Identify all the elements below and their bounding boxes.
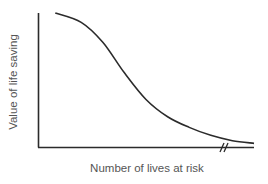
x-axis-label: Number of lives at risk [38,162,256,174]
y-axis-label-text: Value of life saving [7,34,19,130]
y-axis-label: Value of life saving [2,20,24,144]
data-curve [55,13,254,143]
chart-canvas [0,0,268,184]
